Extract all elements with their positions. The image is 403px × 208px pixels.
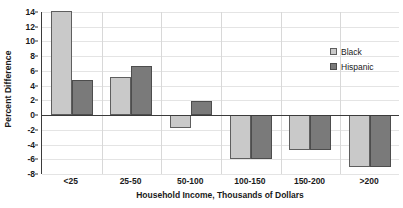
bar-group [161,12,221,174]
bar-chart-figure: Percent Difference 14121086420-2-4-6-8 <… [0,0,403,208]
y-tick-label: -6 [27,154,35,164]
legend-item: Black [330,45,374,58]
zero-axis-line [42,115,399,116]
legend-label: Hispanic [341,62,374,72]
bar [251,115,272,159]
x-tick-label: 150-200 [294,176,325,186]
chart-legend: BlackHispanic [330,45,374,75]
y-tick-mark [35,174,38,175]
legend-swatch-icon [330,63,337,70]
x-tick-label: >200 [360,176,379,186]
y-tick-mark [35,144,38,145]
y-tick-mark [35,159,38,160]
bar [289,115,310,150]
bar [170,115,191,128]
horizontal-gridline [42,174,399,175]
bar [191,101,212,115]
bar-group [340,12,400,174]
y-tick-mark [35,115,38,116]
y-tick-label: 10 [26,36,35,46]
bar [370,115,391,167]
x-tick-label: 100-150 [234,176,265,186]
bar [72,80,93,115]
bar-group [42,12,102,174]
y-tick-mark [35,70,38,71]
legend-label: Black [341,47,362,57]
bar-group [281,12,341,174]
legend-item: Hispanic [330,60,374,73]
y-tick-mark [35,26,38,27]
bar [51,11,72,115]
bar [230,115,251,159]
y-tick-mark [35,12,38,13]
y-tick-mark [35,56,38,57]
x-axis-tick-labels: <2525-5050-100100-150150-200>200 [41,176,399,190]
x-tick-label: 25-50 [120,176,142,186]
y-tick-mark [35,129,38,130]
y-tick-label: -4 [27,140,35,150]
x-axis-title: Household Income, Thousands of Dollars [41,190,399,200]
y-tick-mark [35,100,38,101]
x-tick-label: 50-100 [177,176,203,186]
bar-group [102,12,162,174]
y-axis-title-text: Percent Difference [3,51,13,128]
bar [349,115,370,167]
y-tick-mark [35,41,38,42]
y-tick-mark [35,85,38,86]
bar-group [221,12,281,174]
y-tick-label: 14 [26,7,35,17]
plot-area [41,12,399,174]
y-tick-label: 12 [26,22,35,32]
bar [131,66,152,115]
bar [310,115,331,150]
bar [110,77,131,115]
y-tick-label: -2 [27,125,35,135]
y-axis-tick-labels: 14121086420-2-4-6-8 [14,0,38,178]
y-tick-label: -8 [27,169,35,179]
legend-swatch-icon [330,48,337,55]
x-tick-label: <25 [64,176,78,186]
